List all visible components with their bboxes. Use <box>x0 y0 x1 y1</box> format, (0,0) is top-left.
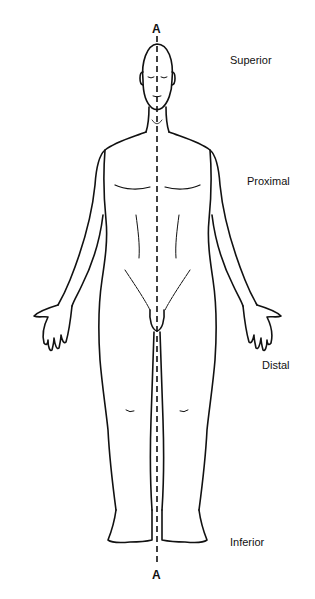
anatomical-figure <box>0 0 315 599</box>
label-proximal: Proximal <box>247 175 290 187</box>
label-distal: Distal <box>262 359 290 371</box>
label-inferior: Inferior <box>230 536 264 548</box>
axis-label-top: A <box>152 22 161 36</box>
label-superior: Superior <box>230 54 272 66</box>
axis-label-bottom: A <box>152 568 161 582</box>
